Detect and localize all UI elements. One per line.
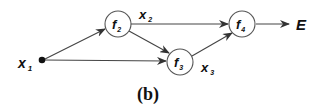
flow-diagram: x1 f2 f3 f4 x2 x3 E (b): [0, 0, 325, 108]
edge-label-x2: x2: [138, 7, 152, 23]
edge-f2-f3: [129, 31, 169, 53]
x1-dot: [39, 57, 46, 64]
edge-x1-f3: [43, 60, 166, 61]
edge-label-x3: x3: [200, 60, 214, 76]
edge-f3-f4: [192, 33, 232, 56]
output-E-label: E: [296, 16, 307, 33]
caption: (b): [137, 84, 159, 105]
node-f2: f2: [105, 11, 131, 37]
edge-x1-f2: [43, 29, 105, 60]
x1-label: x1: [17, 55, 33, 73]
node-f3: f3: [167, 49, 193, 75]
node-f4: f4: [229, 11, 255, 37]
